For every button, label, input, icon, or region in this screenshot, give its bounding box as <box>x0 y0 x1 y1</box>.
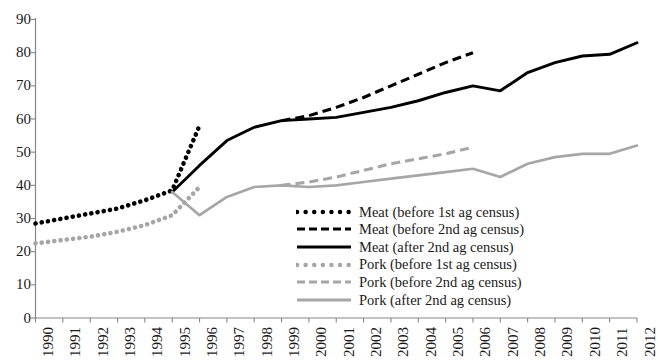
x-tick-label: 1998 <box>260 327 275 357</box>
legend-swatch-solid <box>296 241 352 253</box>
legend-item: Meat (before 1st ag census) <box>296 203 536 221</box>
legend-item: Meat (before 2nd ag census) <box>296 221 536 239</box>
x-tick-label: 1997 <box>232 327 247 357</box>
legend-swatch-dotted <box>296 259 352 271</box>
x-tick-label: 2008 <box>533 327 548 357</box>
legend-item: Pork (after 2nd ag census) <box>296 291 536 309</box>
x-tick-label: 1991 <box>68 327 83 357</box>
x-tick-label: 2012 <box>643 327 658 357</box>
legend-label: Pork (before 2nd ag census) <box>359 275 522 290</box>
legend-label: Pork (after 2nd ag census) <box>359 293 511 308</box>
x-tick-label: 2005 <box>451 327 466 357</box>
x-tick-label: 2006 <box>478 327 493 357</box>
legend-label: Meat (after 2nd ag census) <box>359 240 514 255</box>
x-tick-label: 2009 <box>560 327 575 357</box>
x-tick-label: 2000 <box>314 327 329 357</box>
x-tick-label: 1999 <box>287 327 302 357</box>
legend-item: Meat (after 2nd ag census) <box>296 238 536 256</box>
legend-swatch-dashed <box>296 223 352 235</box>
x-tick-label: 2010 <box>588 327 603 357</box>
x-tick-label: 1995 <box>178 327 193 357</box>
chart-legend: Meat (before 1st ag census)Meat (before … <box>296 203 536 309</box>
legend-label: Meat (before 1st ag census) <box>359 205 519 220</box>
x-tick-label: 1994 <box>150 327 165 357</box>
x-tick-label: 1992 <box>96 327 111 357</box>
x-tick-label: 2001 <box>342 327 357 357</box>
legend-label: Meat (before 2nd ag census) <box>359 222 524 237</box>
x-tick-label: 2004 <box>424 327 439 357</box>
x-tick-label: 1990 <box>41 327 56 357</box>
legend-swatch-dashed <box>296 276 352 288</box>
legend-item: Pork (before 1st ag census) <box>296 256 536 274</box>
x-tick-label: 2003 <box>396 327 411 357</box>
legend-swatch-solid <box>296 294 352 306</box>
x-tick-label: 1996 <box>205 327 220 357</box>
x-tick-label: 2002 <box>369 327 384 357</box>
x-tick-label: 1993 <box>123 327 138 357</box>
legend-swatch-dotted <box>296 206 352 218</box>
x-tick-label: 2007 <box>506 327 521 357</box>
legend-label: Pork (before 1st ag census) <box>359 257 517 272</box>
x-tick-label: 2011 <box>615 328 630 357</box>
legend-item: Pork (before 2nd ag census) <box>296 273 536 291</box>
